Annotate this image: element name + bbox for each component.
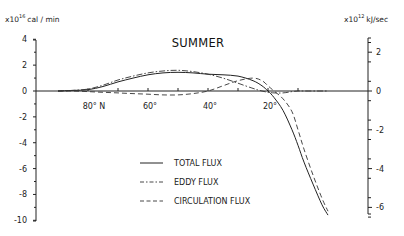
total-flux-line	[58, 72, 328, 215]
chart-title: SUMMER	[172, 36, 225, 50]
legend: TOTAL FLUX EDDY FLUX CIRCULATION FLUX	[140, 159, 251, 206]
legend-item-eddy: EDDY FLUX	[140, 178, 219, 187]
meridional-flux-chart: SUMMER x1016cal / min x1012kJ/sec 420-2-…	[0, 0, 404, 236]
left-y-tick-label: -4	[19, 139, 27, 148]
right-y-tick-label: -2	[376, 126, 384, 135]
left-y-tick-label: -10	[14, 216, 27, 225]
x-tick-label: 40°	[203, 102, 217, 111]
left-y-tick-label: -8	[19, 190, 27, 199]
left-y-tick-label: 2	[22, 61, 27, 70]
right-y-tick-label: 0	[376, 87, 381, 96]
x-tick-label: 60°	[143, 102, 157, 111]
x-tick-label: 80° N	[83, 102, 106, 111]
left-y-tick-labels: 420-2-4-6-8-10	[14, 35, 27, 225]
left-y-tick-label: -2	[19, 113, 27, 122]
right-axis-unit: x1012kJ/sec	[344, 13, 388, 24]
eddy-flux-line	[58, 70, 328, 93]
legend-item-total: TOTAL FLUX	[140, 159, 222, 168]
legend-item-circulation: CIRCULATION FLUX	[140, 197, 251, 206]
x-tick-labels: 80° N60°40°20°	[83, 102, 277, 111]
left-y-tick-label: 0	[22, 87, 27, 96]
left-axis-unit: x1016cal / min	[5, 13, 60, 24]
svg-text:x1016cal / min: x1016cal / min	[5, 13, 60, 24]
right-y-tick-label: -4	[376, 165, 384, 174]
right-y-tick-label: -6	[376, 203, 384, 212]
svg-text:x1012kJ/sec: x1012kJ/sec	[344, 13, 388, 24]
x-tick-label: 20°	[263, 102, 277, 111]
left-y-axis	[33, 39, 36, 221]
left-y-tick-label: -6	[19, 165, 27, 174]
svg-text:CIRCULATION FLUX: CIRCULATION FLUX	[174, 197, 251, 206]
left-y-tick-label: 4	[22, 35, 27, 44]
right-y-tick-label: 2	[376, 48, 381, 57]
svg-text:EDDY FLUX: EDDY FLUX	[174, 178, 219, 187]
right-y-tick-labels: 20-2-4-6	[376, 48, 384, 212]
right-y-axis	[368, 38, 372, 217]
svg-text:TOTAL FLUX: TOTAL FLUX	[173, 159, 222, 168]
circulation-flux-line	[58, 78, 328, 211]
